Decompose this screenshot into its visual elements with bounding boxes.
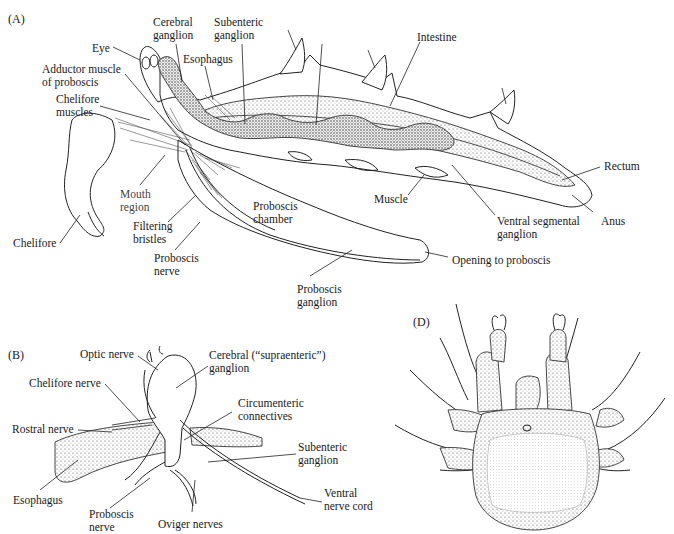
label-anus: Anus <box>601 215 625 228</box>
label-chelifore-muscles: Chelifore muscles <box>56 93 99 119</box>
label-subenteric-ganglion-b: Subenteric ganglion <box>298 441 347 467</box>
label-rectum: Rectum <box>604 160 640 173</box>
label-ventral-segmental-ganglion: Ventral segmental ganglion <box>497 215 580 241</box>
label-intestine: Intestine <box>417 31 457 44</box>
label-oviger-nerves: Oviger nerves <box>158 518 223 531</box>
label-subenteric-ganglion: Subenteric ganglion <box>214 16 263 42</box>
label-mouth-region: Mouth region <box>120 188 151 214</box>
label-proboscis-nerve-a: Proboscis nerve <box>154 252 199 278</box>
label-chelifore: Chelifore <box>13 237 56 250</box>
label-chelifore-nerve: Chelifore nerve <box>29 377 101 390</box>
label-esophagus: Esophagus <box>183 53 233 66</box>
label-optic-nerve: Optic nerve <box>80 348 134 361</box>
panel-label-a: (A) <box>8 12 25 27</box>
label-cerebral-ganglion: Cerebral ganglion <box>153 16 193 42</box>
label-circumenteric-connectives: Circumenteric connectives <box>238 397 304 423</box>
panel-label-d: (D) <box>413 315 430 330</box>
label-proboscis-ganglion: Proboscis ganglion <box>297 283 342 309</box>
label-opening-to-proboscis: Opening to proboscis <box>452 254 550 267</box>
label-cerebral-supraenteric-ganglion: Cerebral (“supraenteric”) ganglion <box>209 349 326 375</box>
label-muscle: Muscle <box>374 193 408 206</box>
label-rostral-nerve: Rostral nerve <box>12 423 74 436</box>
panel-label-b: (B) <box>8 348 24 363</box>
label-eye: Eye <box>92 42 110 55</box>
label-ventral-nerve-cord: Ventral nerve cord <box>324 487 373 513</box>
label-proboscis-chamber: Proboscis chamber <box>253 200 298 226</box>
label-esophagus-b: Esophagus <box>13 494 63 507</box>
label-adductor-muscle: Adductor muscle of proboscis <box>42 63 121 89</box>
label-proboscis-nerve-b: Proboscis nerve <box>89 508 134 534</box>
label-filtering-bristles: Filtering bristles <box>133 220 173 246</box>
panel-d-drawing <box>395 304 665 530</box>
